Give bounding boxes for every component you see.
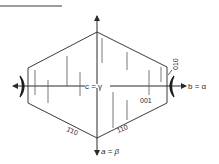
face-010-label: 010 bbox=[172, 58, 179, 70]
crystal-diagram: c = γ b = α a = β 010 001 1̄10 110 bbox=[0, 0, 219, 164]
label-b-alpha: b = α bbox=[188, 82, 207, 91]
label-c-gamma: c = γ bbox=[85, 82, 102, 91]
face-110-label: 110 bbox=[116, 123, 129, 134]
face-1bar10-label: 1̄10 bbox=[66, 125, 80, 136]
label-a-beta: a = β bbox=[101, 147, 120, 156]
face-001-label: 001 bbox=[140, 97, 152, 104]
